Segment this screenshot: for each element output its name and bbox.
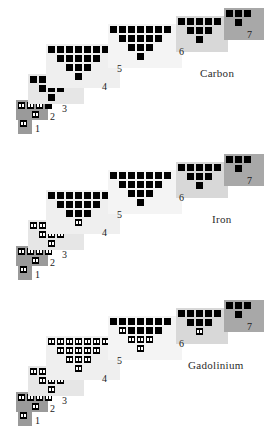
orbital-box	[137, 318, 144, 325]
orbital-box	[20, 412, 27, 419]
shell-number-label: 2	[50, 112, 55, 122]
shell-number-label: 2	[50, 258, 55, 268]
orbital-box	[196, 319, 203, 326]
orbital-box	[75, 192, 82, 199]
orbital-box	[66, 192, 73, 199]
orbital-row	[119, 35, 173, 42]
orbital-row	[48, 240, 75, 247]
orbital-box	[196, 328, 203, 335]
orbital-box	[93, 55, 100, 62]
orbital-row	[48, 338, 111, 345]
electron-dot	[31, 370, 33, 373]
electron-dots	[28, 104, 33, 107]
shell-orbitals-4	[48, 338, 111, 374]
electron-dots	[197, 330, 202, 333]
orbital-box	[205, 173, 212, 180]
orbital-row	[128, 44, 173, 51]
electron-dot	[40, 379, 42, 382]
orbital-box	[187, 18, 194, 25]
electron-dots	[147, 338, 152, 341]
orbital-box	[84, 347, 91, 354]
electron-dot	[19, 396, 21, 399]
electron-dot	[97, 349, 99, 352]
orbital-box	[57, 347, 64, 354]
orbital-box	[128, 318, 135, 325]
orbital-box	[119, 172, 126, 179]
shell-orbitals-7	[226, 302, 253, 320]
orbital-box	[155, 26, 162, 33]
shell-number-label: 5	[117, 210, 122, 220]
orbital-row	[235, 165, 253, 172]
electron-dot	[43, 370, 45, 373]
orbital-box	[84, 64, 91, 71]
electron-dot	[49, 250, 51, 253]
electron-dots	[21, 268, 26, 271]
electron-dots	[40, 379, 45, 382]
orbital-box	[178, 164, 185, 171]
shell-number-label: 5	[117, 64, 122, 74]
orbital-box	[75, 365, 82, 372]
electron-dot	[37, 250, 39, 253]
electron-dot	[33, 113, 35, 116]
electron-dot	[197, 330, 199, 333]
electron-dot	[58, 349, 60, 352]
orbital-box	[75, 338, 82, 345]
electron-dots	[21, 122, 26, 125]
electron-dot	[67, 349, 69, 352]
electron-dot	[79, 221, 81, 224]
electron-dots	[76, 340, 81, 343]
orbital-box	[48, 240, 55, 247]
orbital-box	[137, 327, 144, 334]
orbital-box	[235, 165, 242, 172]
electron-dot	[79, 340, 81, 343]
orbital-box	[84, 55, 91, 62]
shell-number-label: 5	[117, 356, 122, 366]
orbital-row	[235, 19, 253, 26]
shell-orbitals-4	[48, 192, 111, 228]
orbital-box	[48, 94, 55, 101]
orbital-box	[84, 210, 91, 217]
electron-dot	[24, 414, 26, 417]
orbital-row	[66, 64, 111, 71]
orbital-row	[226, 10, 253, 17]
orbital-row	[196, 328, 223, 335]
orbital-box	[196, 310, 203, 317]
orbital-box	[75, 219, 82, 226]
orbital-row	[187, 27, 223, 34]
electron-dot	[76, 358, 78, 361]
electron-dot	[76, 340, 78, 343]
orbital-box	[187, 173, 194, 180]
orbital-box	[178, 18, 185, 25]
orbital-box	[48, 192, 55, 199]
shell-orbitals-6	[178, 164, 223, 191]
orbital-box	[84, 192, 91, 199]
electron-dots	[37, 250, 42, 253]
orbital-box	[66, 46, 73, 53]
electron-dots	[19, 250, 24, 253]
element-panel: 1234567Carbon	[0, 0, 268, 146]
orbital-box	[119, 181, 126, 188]
electron-dot	[76, 221, 78, 224]
orbital-box	[128, 26, 135, 33]
orbital-box	[214, 164, 221, 171]
orbital-box	[57, 201, 64, 208]
orbital-box	[196, 27, 203, 34]
element-panel: 1234567Gadolinium	[0, 292, 268, 438]
orbital-box	[196, 18, 203, 25]
orbital-box	[146, 318, 153, 325]
orbital-box	[119, 318, 126, 325]
orbital-box	[137, 44, 144, 51]
orbital-row	[57, 201, 111, 208]
orbital-row	[66, 210, 111, 217]
electron-dot	[31, 396, 33, 399]
electron-dot	[52, 242, 54, 245]
shell-number-label: 3	[62, 104, 67, 114]
electron-dots	[49, 242, 54, 245]
electron-dot	[79, 349, 81, 352]
electron-dot	[46, 250, 48, 253]
orbital-box	[110, 26, 117, 33]
shell-orbitals-1	[20, 412, 29, 421]
orbital-box	[119, 35, 126, 42]
electron-dot	[43, 379, 45, 382]
electron-dot	[88, 349, 90, 352]
